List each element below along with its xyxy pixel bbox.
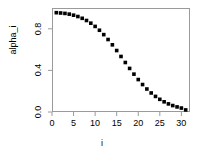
x-axis-title: i: [0, 138, 204, 149]
x-tick-label: 5: [62, 118, 86, 128]
x-tick-label: 0: [40, 118, 64, 128]
x-tick-label: 25: [148, 118, 172, 128]
y-tick-label: 0.8: [33, 19, 43, 39]
x-tick-label: 20: [126, 118, 150, 128]
x-tick-label: 30: [169, 118, 193, 128]
x-tick-label: 15: [105, 118, 129, 128]
chart-figure: 0.0 0.4 0.8 0 5 10 15 20 25 30 alpha_i i: [0, 0, 204, 162]
y-axis-title: alpha_i: [8, 41, 19, 55]
x-tick-label: 10: [83, 118, 107, 128]
scatter-plot-area: [52, 8, 190, 112]
y-tick-label: 0.4: [33, 60, 43, 80]
